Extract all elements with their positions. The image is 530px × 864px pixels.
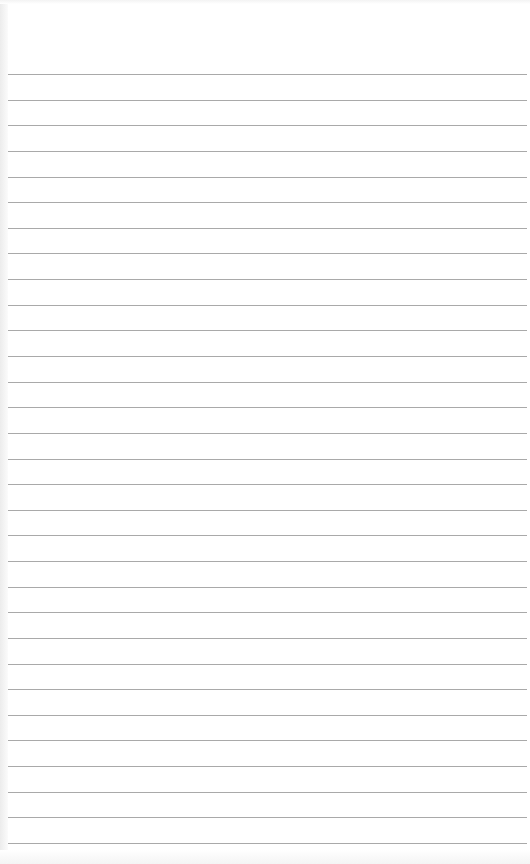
ruled-line bbox=[8, 279, 527, 280]
ruled-line bbox=[8, 151, 527, 152]
ruled-line bbox=[8, 510, 527, 511]
ruled-line bbox=[8, 612, 527, 613]
ruled-line bbox=[8, 740, 527, 741]
ruled-line bbox=[8, 817, 527, 818]
ruled-line bbox=[8, 433, 527, 434]
ruled-line bbox=[8, 382, 527, 383]
ruled-line bbox=[8, 561, 527, 562]
ruled-line bbox=[8, 535, 527, 536]
ruled-line bbox=[8, 638, 527, 639]
ruled-line bbox=[8, 125, 527, 126]
ruled-line bbox=[8, 253, 527, 254]
ruled-line bbox=[8, 202, 527, 203]
ruled-lines bbox=[0, 0, 530, 864]
ruled-line bbox=[8, 330, 527, 331]
ruled-line bbox=[8, 792, 527, 793]
ruled-line bbox=[8, 407, 527, 408]
ruled-line bbox=[8, 587, 527, 588]
ruled-line bbox=[8, 484, 527, 485]
ruled-line bbox=[8, 689, 527, 690]
ruled-line bbox=[8, 74, 527, 75]
ruled-line bbox=[8, 459, 527, 460]
ruled-line bbox=[8, 843, 527, 844]
ruled-line bbox=[8, 356, 527, 357]
ruled-line bbox=[8, 664, 527, 665]
ruled-line bbox=[8, 305, 527, 306]
ruled-line bbox=[8, 766, 527, 767]
ruled-line bbox=[8, 177, 527, 178]
ruled-line bbox=[8, 228, 527, 229]
ruled-line bbox=[8, 100, 527, 101]
ruled-line bbox=[8, 715, 527, 716]
